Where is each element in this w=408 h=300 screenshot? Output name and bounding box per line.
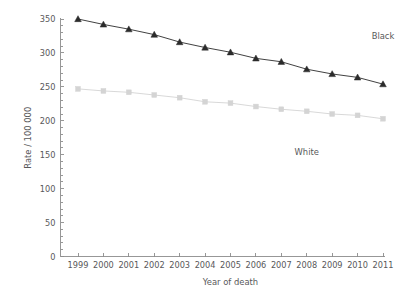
series-annotation-white: White: [295, 147, 319, 157]
x-tick-label: 2009: [322, 260, 343, 270]
series-annotation-black: Black: [372, 31, 395, 41]
x-axis-title: Year of death: [202, 277, 258, 287]
data-point-marker: [304, 109, 309, 114]
data-point-marker: [101, 89, 106, 94]
y-tick-label: 300: [40, 48, 56, 58]
x-tick-label: 2007: [271, 260, 292, 270]
data-point-marker: [279, 107, 284, 112]
data-point-marker: [228, 101, 233, 106]
data-point-marker: [355, 113, 360, 118]
data-point-marker: [177, 95, 182, 100]
y-tick-label: 200: [40, 116, 56, 126]
data-point-marker: [330, 112, 335, 117]
x-tick-label: 2011: [373, 260, 394, 270]
data-point-marker: [381, 116, 386, 121]
x-tick-label: 2005: [220, 260, 241, 270]
x-tick-label: 2000: [93, 260, 114, 270]
data-point-marker: [126, 90, 131, 95]
x-tick-label: 2010: [347, 260, 368, 270]
x-tick-label: 2004: [195, 260, 216, 270]
x-tick-label: 2008: [296, 260, 317, 270]
mortality-rate-line-chart: 050100150200250300350 199920002001200220…: [0, 0, 408, 300]
x-tick-label: 1999: [68, 260, 89, 270]
x-tick-label: 2003: [169, 260, 190, 270]
x-tick-label: 2006: [245, 260, 266, 270]
chart-background: [0, 0, 408, 300]
y-tick-label: 100: [40, 184, 56, 194]
y-tick-label: 350: [40, 14, 56, 24]
y-tick-label: 250: [40, 82, 56, 92]
y-tick-label: 0: [50, 252, 55, 262]
y-axis-title: Rate / 100 000: [23, 107, 33, 169]
x-tick-label: 2001: [118, 260, 139, 270]
data-point-marker: [152, 93, 157, 98]
x-tick-label: 2002: [144, 260, 165, 270]
data-point-marker: [76, 86, 81, 91]
data-point-marker: [254, 104, 259, 109]
y-tick-label: 150: [40, 150, 56, 160]
chart-container: 050100150200250300350 199920002001200220…: [0, 0, 408, 300]
y-tick-label: 50: [45, 218, 55, 228]
data-point-marker: [203, 99, 208, 104]
